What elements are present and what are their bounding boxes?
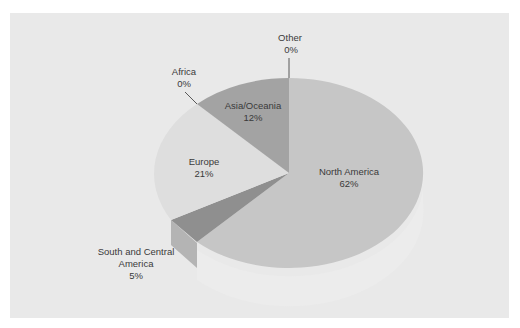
label-sca-name-1: South and Central <box>98 246 175 257</box>
label-other-value: 0% <box>284 44 298 55</box>
label-other-name: Other <box>278 32 302 43</box>
label-africa-value: 0% <box>177 78 191 89</box>
pie-chart: Other 0% Africa 0% Asia/Oceania 12% Euro… <box>0 0 520 328</box>
label-asia-name: Asia/Oceania <box>225 100 282 111</box>
label-sca-value: 5% <box>129 270 143 281</box>
label-africa-name: Africa <box>172 66 197 77</box>
label-north-america-name: North America <box>319 166 380 177</box>
label-sca-name-2: America <box>119 258 155 269</box>
leader-line-africa <box>185 92 197 104</box>
label-asia-value: 12% <box>243 112 263 123</box>
label-europe-value: 21% <box>194 168 214 179</box>
label-north-america-value: 62% <box>339 178 359 189</box>
label-europe-name: Europe <box>189 156 220 167</box>
